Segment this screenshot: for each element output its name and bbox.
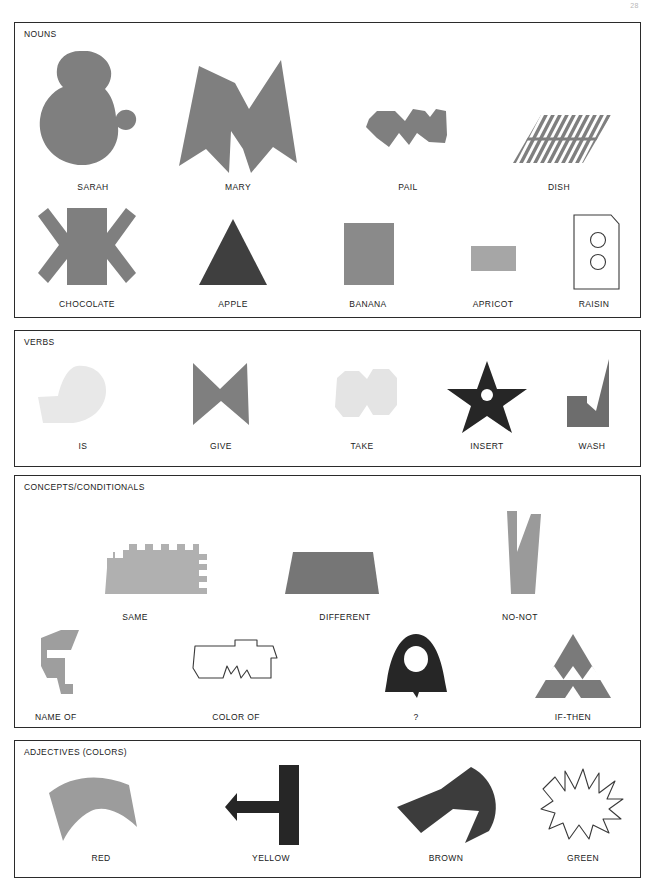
symbol-cell-dish[interactable]: DISH xyxy=(483,45,635,197)
is-comma-blob-shape xyxy=(21,351,145,435)
no-not-forked-shape xyxy=(455,502,585,606)
symbol-label-if-then: IF-THEN xyxy=(511,712,635,722)
section-title-concepts: CONCEPTS/CONDITIONALS xyxy=(24,482,145,492)
symbol-cell-same[interactable]: SAME xyxy=(35,502,235,622)
symbol-label-dish: DISH xyxy=(483,182,635,192)
worksheet-page: 28 NOUNS SARAH MARY xyxy=(0,0,655,888)
symbol-label-mary: MARY xyxy=(163,182,313,192)
symbol-label-apple: APPLE xyxy=(163,299,303,309)
symbol-cell-give[interactable]: GIVE xyxy=(145,351,297,461)
yellow-tee-shape xyxy=(181,761,361,847)
symbol-label-chocolate: CHOCOLATE xyxy=(23,299,151,309)
raisin-outlined-card-shape xyxy=(553,203,635,295)
symbol-cell-apple[interactable]: APPLE xyxy=(163,203,303,313)
take-double-hexagon-shape xyxy=(297,351,427,435)
symbol-label-yellow: YELLOW xyxy=(181,853,361,863)
same-comb-shape xyxy=(35,502,235,606)
symbol-label-name-of: NAME OF xyxy=(35,712,165,722)
symbol-label-apricot: APRICOT xyxy=(433,299,553,309)
symbol-cell-brown[interactable]: BROWN xyxy=(361,761,531,873)
symbol-label-wash: WASH xyxy=(547,441,637,451)
symbol-label-color-of: COLOR OF xyxy=(151,712,321,722)
symbol-cell-wash[interactable]: WASH xyxy=(547,351,637,461)
symbol-cell-raisin[interactable]: RAISIN xyxy=(553,203,635,313)
section-panel-adjectives: ADJECTIVES (COLORS) RED YELLOW xyxy=(14,740,641,878)
symbol-label-same: SAME xyxy=(35,612,235,622)
symbol-label-brown: BROWN xyxy=(361,853,531,863)
symbol-label-different: DIFFERENT xyxy=(235,612,455,622)
symbol-label-question: ? xyxy=(321,712,511,722)
name-of-angular-shape xyxy=(21,626,151,706)
symbol-cell-insert[interactable]: INSERT xyxy=(427,351,547,461)
section-panel-nouns: NOUNS SARAH MARY PAI xyxy=(14,22,641,318)
symbol-label-take: TAKE xyxy=(297,441,427,451)
symbol-cell-apricot[interactable]: APRICOT xyxy=(433,203,553,313)
symbol-cell-question[interactable]: ? xyxy=(321,626,511,726)
symbol-label-no-not: NO-NOT xyxy=(455,612,585,622)
section-panel-verbs: VERBS IS GIVE TAKE xyxy=(14,330,641,467)
symbol-label-green: GREEN xyxy=(531,853,635,863)
apple-triangle-shape xyxy=(163,203,303,295)
symbol-label-is: IS xyxy=(21,441,145,451)
section-title-verbs: VERBS xyxy=(24,337,55,347)
symbol-cell-take[interactable]: TAKE xyxy=(297,351,427,461)
symbol-label-banana: BANANA xyxy=(303,299,433,309)
banana-square-shape xyxy=(303,203,433,295)
green-starburst-outline-shape xyxy=(531,761,635,847)
mary-m-shape xyxy=(163,45,313,175)
symbol-label-red: RED xyxy=(21,853,181,863)
symbol-cell-no-not[interactable]: NO-NOT xyxy=(455,502,585,622)
symbol-cell-yellow[interactable]: YELLOW xyxy=(181,761,361,873)
symbol-cell-green[interactable]: GREEN xyxy=(531,761,635,873)
sarah-blob-shape xyxy=(23,45,163,175)
symbol-label-insert: INSERT xyxy=(427,441,547,451)
section-title-nouns: NOUNS xyxy=(24,29,56,39)
question-bell-shape xyxy=(321,626,511,706)
symbol-cell-different[interactable]: DIFFERENT xyxy=(235,502,455,622)
apricot-rectangle-shape xyxy=(433,203,553,295)
symbol-label-pail: PAIL xyxy=(333,182,483,192)
symbol-cell-name-of[interactable]: NAME OF xyxy=(21,626,151,726)
brown-arrow-crescent-shape xyxy=(361,761,531,847)
color-of-outline-shape xyxy=(151,626,321,706)
symbol-cell-sarah[interactable]: SARAH xyxy=(23,45,163,197)
symbol-cell-color-of[interactable]: COLOR OF xyxy=(151,626,321,726)
section-panel-concepts: CONCEPTS/CONDITIONALS SAME DIFFERENT xyxy=(14,475,641,728)
give-bowtie-shape xyxy=(145,351,297,435)
page-number: 28 xyxy=(630,2,639,9)
wash-notched-triangle-shape xyxy=(547,351,637,435)
symbol-cell-pail[interactable]: PAIL xyxy=(333,45,483,197)
symbol-cell-mary[interactable]: MARY xyxy=(163,45,313,197)
pail-zigzag-shape xyxy=(333,45,483,175)
symbol-cell-is[interactable]: IS xyxy=(21,351,145,461)
symbol-cell-red[interactable]: RED xyxy=(21,761,181,873)
symbol-cell-if-then[interactable]: IF-THEN xyxy=(511,626,635,726)
chocolate-asterisk-shape xyxy=(23,203,151,295)
symbol-label-give: GIVE xyxy=(145,441,297,451)
symbol-cell-chocolate[interactable]: CHOCOLATE xyxy=(23,203,151,313)
symbol-label-raisin: RAISIN xyxy=(553,299,635,309)
different-trapezoid-shape xyxy=(235,502,455,606)
section-title-adjectives: ADJECTIVES (COLORS) xyxy=(24,747,127,757)
red-curved-wing-shape xyxy=(21,761,181,847)
if-then-sierpinski-triangle-shape xyxy=(511,626,635,706)
dish-striped-parallelogram-shape xyxy=(483,45,635,175)
insert-star-shape xyxy=(427,351,547,435)
symbol-label-sarah: SARAH xyxy=(23,182,163,192)
symbol-cell-banana[interactable]: BANANA xyxy=(303,203,433,313)
